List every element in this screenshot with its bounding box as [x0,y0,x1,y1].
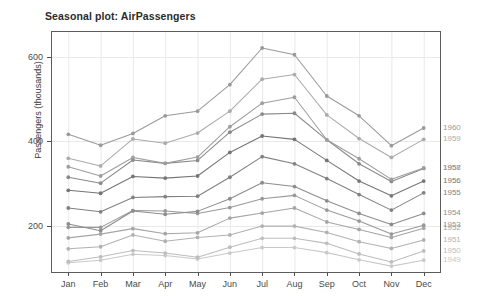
data-point [196,155,200,159]
series-line-1951 [68,226,423,249]
data-point [99,210,103,214]
x-tick-label-dec: Dec [404,279,444,289]
data-point [228,206,232,210]
seasonal-plot-figure: Seasonal plot: AirPassengers Passengers … [0,0,479,303]
data-point [389,232,393,236]
data-point [357,240,361,244]
series-label-1960: 1960 [443,124,461,132]
data-point [422,126,426,130]
data-point [196,109,200,113]
data-point [66,247,70,251]
data-point [325,138,329,142]
data-point [66,188,70,192]
data-point [66,222,70,226]
series-label-1959: 1959 [443,135,461,143]
series-label-1953: 1953 [443,221,461,229]
data-point [99,232,103,236]
data-point [196,231,200,235]
data-point [325,199,329,203]
data-point [389,264,393,268]
data-point [422,191,426,195]
data-point [389,177,393,181]
data-point [228,197,232,201]
data-point [196,255,200,259]
data-point [131,233,135,237]
data-point [163,232,167,236]
series-label-1955: 1955 [443,189,461,197]
chart-title: Seasonal plot: AirPassengers [45,10,196,22]
data-point [422,166,426,170]
series-label-1954: 1954 [443,209,461,217]
y-tick-label-200: 200 [15,221,43,231]
data-point [260,181,264,185]
data-point [422,249,426,253]
data-point [260,197,264,201]
data-point [325,231,329,235]
data-point [260,46,264,50]
data-point [228,175,232,179]
data-point [131,209,135,213]
data-point [422,258,426,262]
data-point [389,223,393,227]
series-label-1951: 1951 [443,236,461,244]
data-point [99,255,103,259]
data-point [389,236,393,240]
data-point [228,251,232,255]
data-point [99,258,103,262]
data-point [131,175,135,179]
data-point [389,156,393,160]
data-point [66,165,70,169]
data-point [260,101,264,105]
data-point [196,131,200,135]
data-point [228,216,232,220]
data-point [357,228,361,232]
data-point [260,112,264,116]
series-line-1959 [68,75,423,166]
data-point [99,229,103,233]
data-point [66,225,70,229]
data-point [228,125,232,129]
data-point [228,109,232,113]
data-point [357,157,361,161]
data-point [131,132,135,136]
data-point [357,219,361,223]
data-point [293,111,297,115]
series-label-1956: 1956 [443,177,461,185]
data-point [389,144,393,148]
data-point [293,137,297,141]
data-point [196,194,200,198]
data-point [99,245,103,249]
data-point [293,246,297,250]
series-line-1954 [68,183,423,231]
data-point [163,212,167,216]
data-point [422,223,426,227]
data-point [163,251,167,255]
data-point [389,247,393,251]
data-point [357,137,361,141]
data-point [293,73,297,77]
data-point [325,241,329,245]
data-point [163,239,167,243]
data-point [422,137,426,141]
data-point [99,181,103,185]
data-point [260,224,264,228]
data-point [196,209,200,213]
data-point [422,179,426,183]
data-point [163,114,167,118]
data-point [293,206,297,210]
data-point [131,249,135,253]
data-point [131,156,135,160]
y-axis-title: Passengers (thousands) [33,20,43,200]
data-point [163,195,167,199]
data-point [66,175,70,179]
data-point [357,193,361,197]
data-point [325,220,329,224]
series-label-1950: 1950 [443,247,461,255]
series-layer [52,32,440,272]
data-point [66,156,70,160]
data-point [163,209,167,213]
data-point [357,258,361,262]
data-point [66,206,70,210]
data-point [260,77,264,81]
data-point [293,53,297,57]
